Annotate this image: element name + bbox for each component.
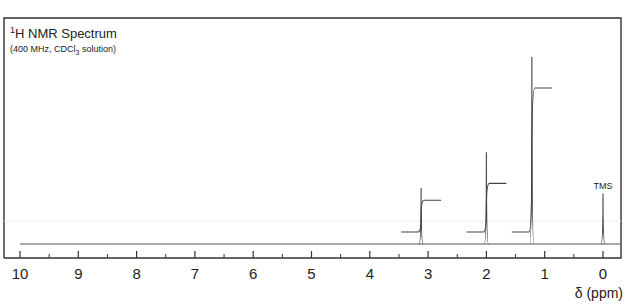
chart-title: 1H NMR Spectrum xyxy=(10,25,117,41)
x-tick-label: 10 xyxy=(12,265,29,282)
tms-annotation: TMS xyxy=(594,181,613,191)
x-tick-label: 7 xyxy=(191,265,199,282)
x-tick-label: 0 xyxy=(599,265,607,282)
spectrum-peak xyxy=(601,194,605,244)
x-tick-label: 5 xyxy=(307,265,315,282)
x-tick-label: 3 xyxy=(424,265,432,282)
x-tick-label: 9 xyxy=(74,265,82,282)
x-tick-label: 2 xyxy=(482,265,490,282)
x-tick-label: 1 xyxy=(541,265,549,282)
x-axis-label: δ (ppm) xyxy=(575,285,623,301)
chart-subtitle: (400 MHz, CDCl3 solution) xyxy=(10,44,116,56)
x-tick-label: 6 xyxy=(249,265,257,282)
x-tick-label: 4 xyxy=(366,265,374,282)
x-tick-label: 8 xyxy=(132,265,140,282)
